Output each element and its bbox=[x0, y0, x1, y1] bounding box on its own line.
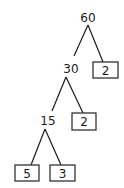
leaf-2-middle: 2 bbox=[72, 113, 96, 130]
leaf-3: 3 bbox=[50, 165, 75, 181]
node-60: 60 bbox=[80, 11, 95, 25]
edge-60-2 bbox=[88, 25, 103, 62]
edge-60-30 bbox=[74, 25, 88, 56]
edge-30-15 bbox=[52, 77, 66, 111]
edge-15-3 bbox=[45, 129, 61, 165]
node-15: 15 bbox=[40, 114, 55, 128]
leaf-2-middle-label: 2 bbox=[80, 115, 88, 129]
factor-tree-diagram: 60 30 15 2 2 5 3 bbox=[0, 0, 124, 188]
leaf-5-label: 5 bbox=[23, 167, 31, 181]
edge-15-5 bbox=[31, 129, 45, 165]
leaf-2-top: 2 bbox=[93, 62, 118, 78]
leaf-3-label: 3 bbox=[59, 167, 67, 181]
edge-30-2 bbox=[66, 77, 83, 113]
leaf-5: 5 bbox=[15, 165, 39, 181]
leaf-2-top-label: 2 bbox=[102, 64, 110, 78]
node-30: 30 bbox=[63, 62, 78, 76]
